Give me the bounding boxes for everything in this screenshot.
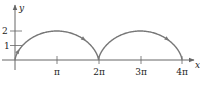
x-tick-label-pi: π	[54, 67, 60, 77]
y-tick-label-1: 1	[4, 41, 10, 51]
x-tick-label-3pi: 3π	[135, 67, 147, 77]
y-ticks: 2 1	[2, 26, 22, 51]
y-axis-label: y	[18, 3, 25, 13]
x-ticks: π 2π 3π 4π	[54, 56, 188, 77]
direction-arrows	[15, 36, 170, 54]
y-tick-label-2: 2	[2, 26, 8, 36]
x-tick-label-4pi: 4π	[176, 67, 188, 77]
x-axis-label: x	[195, 60, 200, 70]
cycloid-chart: x y 2 1 π 2π 3π 4π	[0, 0, 200, 85]
x-tick-label-2pi: 2π	[93, 67, 105, 77]
cycloid-curve	[15, 31, 182, 60]
